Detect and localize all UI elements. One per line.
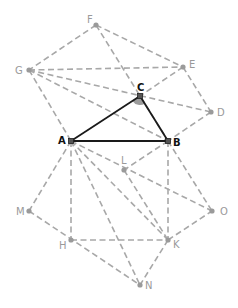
label-b: B (173, 137, 181, 148)
side-ca (71, 96, 140, 141)
dashed-segment-gd (29, 70, 211, 112)
point-labels: ABCDEFGHKLMNO (15, 14, 228, 291)
label-m: M (16, 206, 25, 217)
label-g: G (15, 65, 23, 76)
dashed-segment-an (71, 141, 140, 285)
point-c (138, 94, 143, 99)
dashed-segment-ak (71, 141, 168, 240)
dashed-segment-lk (124, 170, 168, 240)
label-o: O (220, 206, 228, 217)
dashed-segment-ko (168, 211, 212, 240)
label-e: E (189, 59, 195, 70)
label-k: K (173, 239, 180, 250)
point-b (166, 139, 171, 144)
point-m (26, 208, 31, 213)
triangle-abc (71, 96, 168, 141)
label-c: C (137, 82, 144, 93)
label-n: N (145, 280, 152, 291)
label-f: F (87, 14, 93, 25)
dashed-segment-ec (140, 67, 183, 96)
point-g (26, 67, 31, 72)
geometry-diagram: ABCDEFGHKLMNO (0, 0, 238, 308)
point-k (165, 237, 170, 242)
point-o (209, 208, 214, 213)
point-h (68, 237, 73, 242)
label-d: D (217, 107, 225, 118)
dashed-segment-ed (183, 67, 211, 112)
point-f (93, 22, 98, 27)
point-e (180, 64, 185, 69)
point-n (137, 282, 142, 287)
dashed-segment-am (29, 141, 71, 211)
dashed-segment-fg (29, 25, 96, 70)
label-a: A (58, 135, 66, 146)
dashed-segment-bl (124, 141, 168, 170)
label-l: L (121, 155, 127, 166)
side-bc (140, 96, 168, 141)
dashed-segment-kn (140, 240, 168, 285)
dashed-segment-mn (29, 211, 140, 285)
point-d (208, 109, 213, 114)
point-a (69, 139, 74, 144)
point-l (121, 167, 126, 172)
label-h: H (59, 240, 67, 251)
dashed-segment-ge (29, 67, 183, 70)
